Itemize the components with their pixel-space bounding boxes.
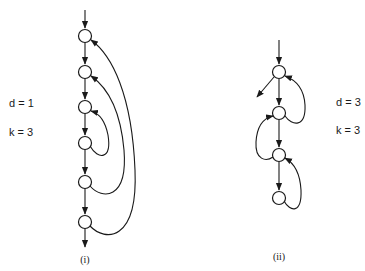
node-i-2	[79, 66, 92, 79]
back-edge-n4-n3	[90, 111, 109, 155]
back-edge-n2-n1	[285, 76, 305, 123]
diagram-canvas: d = 1 k = 3 (i) d = 3 k = 3 (ii)	[0, 0, 365, 271]
diagram-i: d = 1 k = 3 (i)	[9, 10, 135, 266]
node-i-5	[79, 176, 92, 189]
node-ii-3	[273, 149, 286, 162]
node-i-1	[79, 30, 92, 43]
back-edge-n6-n1	[90, 40, 135, 235]
back-edge-n3-n2	[256, 116, 273, 159]
back-edge-n5-n2	[90, 76, 124, 194]
caption-ii: (ii)	[273, 251, 285, 263]
node-i-6	[79, 216, 92, 229]
node-ii-4	[273, 192, 286, 205]
param-d-label: d = 3	[336, 96, 361, 108]
param-k-label: k = 3	[336, 124, 360, 136]
node-ii-2	[273, 107, 286, 120]
back-edge-n4-n3	[284, 158, 301, 209]
diagram-ii: d = 3 k = 3 (ii)	[256, 40, 361, 263]
node-i-3	[79, 101, 92, 114]
exit-edge	[257, 77, 274, 97]
node-ii-1	[273, 66, 286, 79]
caption-i: (i)	[80, 254, 89, 266]
node-i-4	[79, 137, 92, 150]
param-d-label: d = 1	[9, 97, 34, 109]
param-k-label: k = 3	[9, 126, 33, 138]
